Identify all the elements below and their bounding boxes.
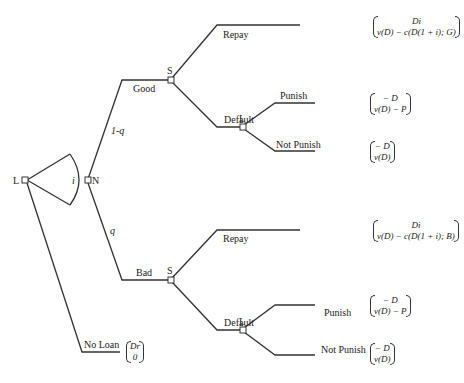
branch-label-prob-bad: q <box>110 226 115 236</box>
branch-label-bad: Bad <box>136 268 152 278</box>
branch-label-bad-not-punish: Not Punish <box>321 345 366 355</box>
payoff-bad-punish: − D v(D) − P <box>370 295 411 317</box>
branch-label-good-punish: Punish <box>280 91 307 101</box>
payoff-lender: − D <box>374 295 407 306</box>
branch-label-prob-good: 1-q <box>111 126 124 136</box>
payoff-sovereign: v(D) − P <box>374 104 407 115</box>
payoff-lender: Di <box>377 220 455 231</box>
branch-label-good-repay: Repay <box>223 30 249 40</box>
payoff-bad-not-punish: − D v(D) <box>370 343 395 365</box>
payoff-good-not-punish: − D v(D) <box>370 141 395 163</box>
edge-bad-not-punish <box>244 332 315 355</box>
branch-label-bad-punish: Punish <box>324 308 351 318</box>
payoff-sovereign: v(D) − P <box>374 306 407 317</box>
node-box-sovereign-good <box>168 77 174 83</box>
payoff-lender: Dr <box>130 341 140 352</box>
payoff-lender: Di <box>377 16 456 27</box>
wedge-upper-edge <box>27 154 70 180</box>
edge-bad-punish <box>244 305 315 328</box>
node-box-lender-root <box>22 177 28 183</box>
node-box-nature <box>85 177 91 183</box>
node-label-lender-root: L <box>13 176 19 186</box>
payoff-lender: − D <box>374 141 391 152</box>
payoff-sovereign: v(D) <box>374 354 391 365</box>
payoff-lender: − D <box>374 93 407 104</box>
payoff-lender: − D <box>374 343 391 354</box>
branch-label-bad-repay: Repay <box>223 234 249 244</box>
node-label-nature: N <box>92 176 99 186</box>
edge-good-punish <box>244 103 315 125</box>
payoff-bad-repay: Di v(D) − c(D(1 + i); B) <box>373 220 459 242</box>
payoff-good-repay: Di v(D) − c(D(1 + i); G) <box>373 16 460 38</box>
node-box-sovereign-bad <box>168 277 174 283</box>
edge-no-loan <box>27 183 120 352</box>
branch-label-good: Good <box>133 84 155 94</box>
edge-bad <box>88 183 168 280</box>
node-label-sovereign-bad: S <box>167 266 173 276</box>
payoff-good-punish: − D v(D) − P <box>370 93 411 115</box>
payoff-sovereign: v(D) <box>374 152 391 163</box>
payoff-sovereign: v(D) − c(D(1 + i); G) <box>377 27 456 38</box>
branch-label-no-loan: No Loan <box>84 340 119 350</box>
branch-label-good-default: Default <box>224 115 254 125</box>
interest-rate-label: i <box>72 176 75 186</box>
payoff-no-loan: Dr 0 <box>126 341 144 363</box>
edge-good <box>88 80 168 179</box>
node-label-sovereign-good: S <box>167 66 173 76</box>
payoff-sovereign: v(D) − c(D(1 + i); B) <box>377 231 455 242</box>
branch-label-good-not-punish: Not Punish <box>276 140 321 150</box>
branch-label-bad-default: Default <box>224 318 254 328</box>
payoff-sovereign: 0 <box>130 352 140 363</box>
